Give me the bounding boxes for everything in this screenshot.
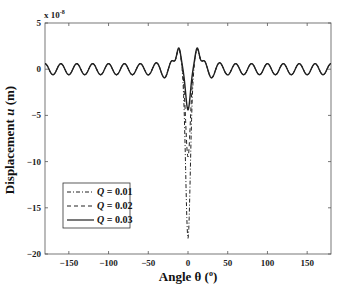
series-line-003 (45, 48, 331, 110)
y-tick-label: 0 (37, 64, 42, 74)
x-axis-title: Angle θ (o) (159, 269, 217, 284)
x-tick-label: −50 (141, 258, 156, 268)
x-tick-label: 100 (261, 258, 275, 268)
legend-label-q002: Q = 0.02 (97, 200, 132, 211)
y-tick-label: −15 (27, 203, 42, 213)
x-tick-label: 0 (186, 258, 191, 268)
legend: Q = 0.01 Q = 0.02 Q = 0.03 (63, 183, 132, 228)
y-multiplier-label: x 10-8 (44, 9, 65, 20)
x-tick-label: 50 (223, 258, 233, 268)
line-chart: x 10-8 −150−100−5005010015050−5−10−15−20… (0, 0, 342, 297)
axis-ticks: −150−100−5005010015050−5−10−15−20 (27, 18, 331, 268)
y-tick-label: −10 (27, 157, 42, 167)
legend-label-q003: Q = 0.03 (97, 214, 132, 225)
y-axis-title: Displacement u (m) (2, 86, 17, 194)
x-tick-label: 150 (300, 258, 314, 268)
y-tick-label: −5 (31, 110, 41, 120)
series-line-002 (45, 49, 331, 157)
x-tick-label: −100 (99, 258, 118, 268)
legend-label-q001: Q = 0.01 (97, 186, 132, 197)
x-tick-label: −150 (60, 258, 79, 268)
y-tick-label: 5 (37, 18, 42, 28)
y-tick-label: −20 (27, 249, 42, 259)
